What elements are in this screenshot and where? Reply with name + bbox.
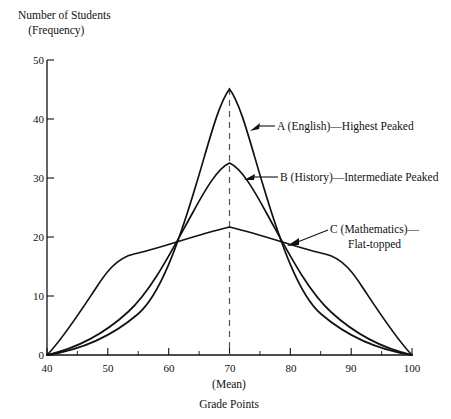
leader-line-curve-c [287,230,328,246]
y-axis-ticks [47,60,54,355]
chart-canvas [0,0,451,419]
distribution-curves-figure: Number of Students (Frequency) 50 40 30 … [0,0,451,419]
leader-line-curve-a [250,123,275,131]
